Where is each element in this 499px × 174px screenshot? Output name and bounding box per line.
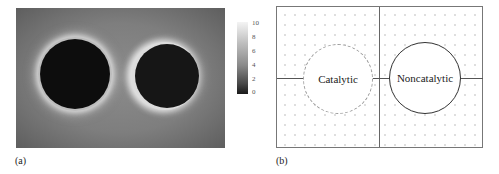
panel-label-a: (a) [15,155,26,166]
colorbar-tick: 2 [252,76,256,83]
colorbar-tick: 8 [252,34,256,41]
catalytic-label: Catalytic [318,73,358,85]
colorbar-tick: 6 [252,48,256,55]
panel-label-b: (b) [276,155,288,166]
catalytic-particle: Catalytic [303,44,373,114]
axis-line-left [277,78,303,79]
catalytic-particle-dark-region [40,39,110,109]
noncatalytic-particle: Noncatalytic [389,42,461,114]
colorbar-tick: 10 [252,20,259,27]
colorbar-tick: 0 [252,89,256,96]
colorbar [237,22,248,94]
center-divider-line [379,7,380,147]
noncatalytic-label: Noncatalytic [397,72,453,84]
panel-b-flow-field: Catalytic Noncatalytic [276,6,483,148]
colorbar-tick: 4 [252,62,256,69]
panel-a-concentration-map [16,8,225,148]
axis-line-right [459,78,483,79]
noncatalytic-particle-dark-region [135,44,199,108]
axis-line-middle [371,78,389,79]
